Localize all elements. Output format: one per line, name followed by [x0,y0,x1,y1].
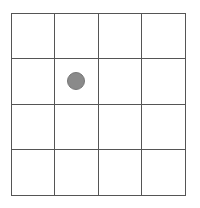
board-cell-r3-c2[interactable] [99,150,142,195]
board-cell-r2-c0[interactable] [12,105,55,150]
game-board [11,13,186,196]
board-cell-r0-c3[interactable] [142,14,185,59]
board-cell-r2-c1[interactable] [55,105,98,150]
board-cell-r0-c1[interactable] [55,14,98,59]
board-cell-r1-c1[interactable] [55,59,98,104]
board-cell-r2-c3[interactable] [142,105,185,150]
board-cell-r2-c2[interactable] [99,105,142,150]
board-cell-r3-c3[interactable] [142,150,185,195]
board-cell-r1-c0[interactable] [12,59,55,104]
board-cell-r3-c1[interactable] [55,150,98,195]
board-cell-r0-c2[interactable] [99,14,142,59]
board-cell-r1-c3[interactable] [142,59,185,104]
board-cell-r3-c0[interactable] [12,150,55,195]
board-cell-r1-c2[interactable] [99,59,142,104]
game-piece-circle[interactable] [67,72,85,90]
board-cell-r0-c0[interactable] [12,14,55,59]
